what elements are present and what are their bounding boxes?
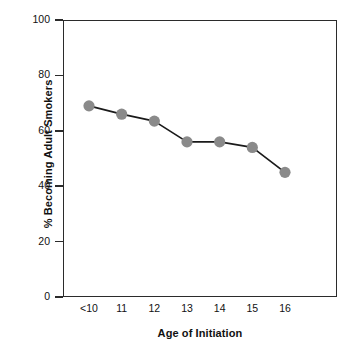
x-axis-tick-label: 16 <box>265 303 305 314</box>
y-axis-tick <box>55 241 63 243</box>
y-axis-tick-label: 100 <box>10 14 50 25</box>
chart-figure: % Becoming Adult Smokers Age of Initiati… <box>0 0 364 351</box>
y-axis-tick-label: 80 <box>10 69 50 80</box>
y-axis-tick <box>55 19 63 21</box>
y-axis-tick-label: 40 <box>10 180 50 191</box>
x-axis-title: Age of Initiation <box>63 327 337 339</box>
y-axis-tick-label: 20 <box>10 236 50 247</box>
y-axis-tick <box>55 75 63 77</box>
y-axis-tick-label: 0 <box>10 291 50 302</box>
y-axis-tick <box>55 185 63 187</box>
y-axis-tick <box>55 296 63 298</box>
plot-area-frame <box>63 20 337 297</box>
y-axis-tick-label: 60 <box>10 125 50 136</box>
y-axis-tick <box>55 130 63 132</box>
